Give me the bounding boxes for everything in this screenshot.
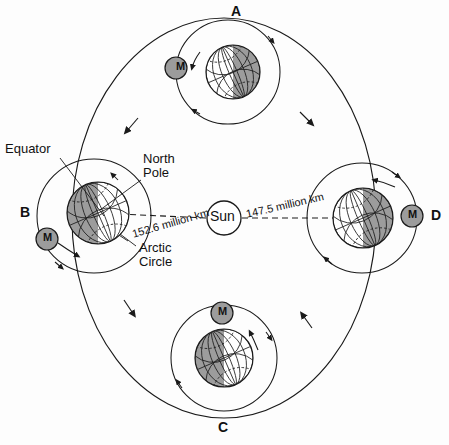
position-label-d: D	[431, 208, 441, 223]
orbit-arrow-lower-left	[124, 300, 134, 315]
position-label-b: B	[20, 205, 30, 220]
moon-label-d: M	[408, 209, 417, 221]
north-pole-label: NorthPole	[143, 152, 175, 180]
orbit-arrow-upper-right	[300, 112, 312, 124]
moon-spin-arrow-a	[192, 52, 200, 68]
equator-label: Equator	[5, 142, 51, 156]
arctic-circle-line-1: Arctic	[139, 240, 172, 255]
arctic-circle-label: ArcticCircle	[139, 241, 172, 269]
moon-orbit-arrow-d1	[392, 172, 399, 177]
north-pole-line-2: Pole	[143, 165, 169, 180]
orbit-arrow-lower-right	[302, 314, 312, 328]
moon-orbit-arrow-b1	[112, 174, 118, 180]
moon-spin-arrow-b	[58, 243, 78, 256]
sun-label: Sun	[210, 209, 235, 224]
position-b-group	[36, 159, 151, 273]
moon-orbit-arrow-d2	[325, 258, 332, 264]
moon-label-b: M	[43, 232, 52, 244]
position-label-a: A	[231, 4, 241, 19]
moon-spin-arrow-d	[374, 180, 395, 187]
orbit-arrow-upper-left	[126, 118, 138, 132]
north-pole-line-1: North	[143, 151, 175, 166]
moon-label-a: M	[176, 61, 185, 73]
arctic-circle-line-2: Circle	[139, 254, 172, 269]
moon-label-c: M	[218, 306, 227, 318]
orbit-diagram: A B C D Sun M M M M Equator NorthPole Ar…	[0, 0, 449, 445]
position-label-c: C	[218, 420, 228, 435]
position-c-group	[171, 302, 277, 411]
